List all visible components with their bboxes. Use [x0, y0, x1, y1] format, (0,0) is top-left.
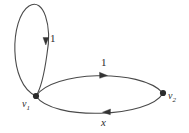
- vertex-label-v2: v2: [168, 91, 176, 104]
- top-edge-path: [36, 76, 163, 96]
- vertex-label-v1-subscript: 1: [26, 104, 30, 112]
- bottom-edge-weight-label: x: [101, 117, 106, 128]
- vertex-node-v2[interactable]: [160, 90, 166, 96]
- graph-canvas: [0, 0, 189, 133]
- vertex-node-v1[interactable]: [33, 93, 39, 99]
- self-loop-edge: [15, 4, 49, 96]
- bottom-edge-path: [36, 93, 163, 113]
- top-edge-weight-label: 1: [101, 57, 107, 68]
- vertex-label-v1: v1: [22, 99, 30, 112]
- self-loop-arrowhead-icon: [43, 38, 49, 46]
- self-loop-weight-label: 1: [50, 33, 56, 44]
- bottom-edge-arrowhead-icon: [103, 109, 111, 115]
- top-edge-arrowhead-icon: [100, 72, 108, 78]
- graph-figure: 1 1 x v1 v2: [0, 0, 189, 133]
- vertex-label-v2-subscript: 2: [172, 96, 176, 104]
